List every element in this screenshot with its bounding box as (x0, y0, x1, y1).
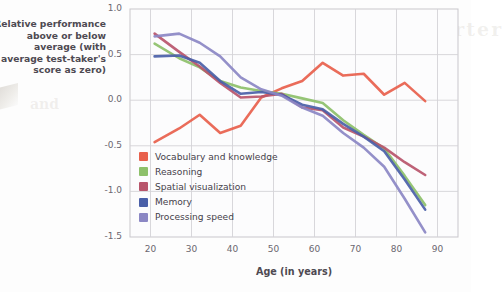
legend-swatch-icon (139, 167, 148, 176)
y-tick-label: 1.0 (96, 3, 122, 13)
legend-item[interactable]: Vocabulary and knowledge (139, 149, 278, 164)
x-axis-title: Age (in years) (130, 266, 458, 277)
legend-item[interactable]: Spatial visualization (139, 179, 278, 194)
legend-item-label: Spatial visualization (155, 182, 246, 192)
y-tick-label: -1.5 (96, 231, 122, 241)
x-tick-label: 70 (341, 244, 371, 254)
legend-swatch-icon (139, 182, 148, 191)
legend-item[interactable]: Memory (139, 195, 278, 210)
y-tick-label: -1.0 (96, 185, 122, 195)
x-tick-label: 90 (423, 244, 453, 254)
legend-item[interactable]: Processing speed (139, 210, 278, 225)
legend-item-label: Reasoning (155, 167, 202, 177)
legend-swatch-icon (139, 198, 148, 207)
y-tick-label: 0.5 (96, 49, 122, 59)
y-tick-label: -0.5 (96, 140, 122, 150)
legend-swatch-icon (139, 152, 148, 161)
x-tick-label: 50 (259, 244, 289, 254)
legend-item-label: Processing speed (155, 212, 234, 222)
y-tick-label: 0.0 (96, 94, 122, 104)
legend-item[interactable]: Reasoning (139, 164, 278, 179)
x-tick-label: 60 (300, 244, 330, 254)
legend-swatch-icon (139, 213, 148, 222)
x-tick-label: 80 (382, 244, 412, 254)
x-tick-label: 40 (218, 244, 248, 254)
legend-item-label: Vocabulary and knowledge (155, 152, 278, 162)
x-tick-label: 30 (177, 244, 207, 254)
x-tick-label: 20 (136, 244, 166, 254)
legend-item-label: Memory (155, 197, 192, 207)
chart-legend: Vocabulary and knowledgeReasoningSpatial… (139, 149, 278, 225)
